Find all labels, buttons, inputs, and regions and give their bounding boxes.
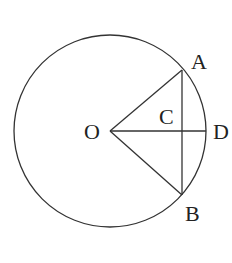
label-c: C: [159, 104, 174, 129]
label-b: B: [185, 201, 200, 226]
label-d: D: [213, 119, 229, 144]
segment-ob: [110, 131, 182, 195]
diagram-svg: A B C D O: [0, 0, 232, 263]
geometry-diagram: A B C D O: [0, 0, 232, 263]
label-a: A: [191, 49, 207, 74]
label-o: O: [84, 119, 100, 144]
